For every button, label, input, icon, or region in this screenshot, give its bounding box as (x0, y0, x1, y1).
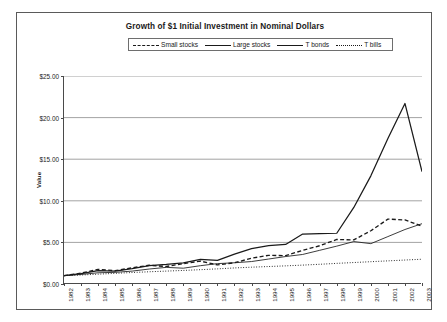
series-line (64, 224, 422, 276)
x-tick-label: 1988 (169, 288, 176, 302)
x-tick-label: 1982 (67, 288, 74, 302)
y-tick-mark (61, 159, 64, 160)
x-tick-label: 2003 (425, 288, 432, 302)
x-tick-mark (320, 283, 321, 286)
x-tick-label: 1999 (356, 288, 363, 302)
y-tick-label: $10.00 (39, 197, 59, 204)
x-tick-mark (166, 283, 167, 286)
x-tick-mark (132, 283, 133, 286)
x-tick-label: 1996 (305, 288, 312, 302)
chart-title: Growth of $1 Initial Investment in Nomin… (17, 22, 433, 31)
x-tick-label: 1986 (135, 288, 142, 302)
legend-swatch-icon (277, 40, 303, 49)
x-tick-mark (337, 283, 338, 286)
y-tick-label: $0.00 (43, 281, 59, 288)
x-tick-mark (371, 283, 372, 286)
chart-frame: Growth of $1 Initial Investment in Nomin… (16, 12, 432, 310)
x-tick-label: 1989 (186, 288, 193, 302)
x-tick-mark (405, 283, 406, 286)
chart-legend: Small stocksLarge stocksT bondsT bills (128, 38, 393, 51)
x-tick-mark (269, 283, 270, 286)
y-tick-label: $25.00 (39, 73, 59, 80)
legend-swatch-icon (133, 40, 159, 49)
plot-wrapper: Value $0.00$5.00$10.00$15.00$20.00$25.00… (63, 76, 421, 284)
legend-label: Large stocks (233, 41, 270, 48)
x-tick-mark (149, 283, 150, 286)
x-tick-label: 1983 (84, 288, 91, 302)
y-tick-mark (61, 76, 64, 77)
x-tick-mark (217, 283, 218, 286)
legend-swatch-icon (336, 40, 362, 49)
x-tick-mark (115, 283, 116, 286)
x-tick-mark (98, 283, 99, 286)
legend-label: T bonds (305, 41, 329, 48)
x-tick-label: 1992 (237, 288, 244, 302)
x-tick-label: 2002 (408, 288, 415, 302)
x-tick-mark (200, 283, 201, 286)
y-tick-label: $5.00 (43, 239, 59, 246)
legend-entry: T bonds (277, 38, 336, 51)
x-tick-label: 2000 (373, 288, 380, 302)
x-tick-label: 1993 (254, 288, 261, 302)
x-tick-mark (234, 283, 235, 286)
y-tick-mark (61, 201, 64, 202)
series-line (64, 259, 422, 275)
x-tick-mark (303, 283, 304, 286)
x-tick-mark (388, 283, 389, 286)
legend-label: Small stocks (161, 41, 198, 48)
x-tick-label: 1990 (203, 288, 210, 302)
x-tick-mark (286, 283, 287, 286)
x-tick-mark (183, 283, 184, 286)
legend-entry: Small stocks (133, 38, 205, 51)
x-tick-mark (64, 283, 65, 286)
x-tick-mark (252, 283, 253, 286)
series-line (64, 103, 422, 275)
x-tick-label: 1995 (288, 288, 295, 302)
x-tick-label: 1998 (339, 288, 346, 302)
plot-lines (64, 76, 422, 284)
y-tick-label: $20.00 (39, 114, 59, 121)
legend-entry: Large stocks (205, 38, 277, 51)
x-tick-label: 1991 (220, 288, 227, 302)
legend-swatch-icon (205, 40, 231, 49)
series-line (64, 219, 422, 276)
y-axis-title: Value (35, 172, 42, 188)
x-tick-label: 1985 (118, 288, 125, 302)
x-tick-label: 1994 (271, 288, 278, 302)
x-tick-mark (354, 283, 355, 286)
y-tick-label: $15.00 (39, 156, 59, 163)
x-tick-mark (422, 283, 423, 286)
x-tick-mark (81, 283, 82, 286)
x-tick-label: 1997 (322, 288, 329, 302)
legend-label: T bills (364, 41, 381, 48)
x-tick-label: 2001 (391, 288, 398, 302)
x-tick-label: 1984 (101, 288, 108, 302)
y-tick-mark (61, 242, 64, 243)
legend-entry: T bills (336, 38, 388, 51)
x-tick-label: 1987 (152, 288, 159, 302)
plot-area: $0.00$5.00$10.00$15.00$20.00$25.00198219… (63, 76, 421, 284)
y-tick-mark (61, 118, 64, 119)
